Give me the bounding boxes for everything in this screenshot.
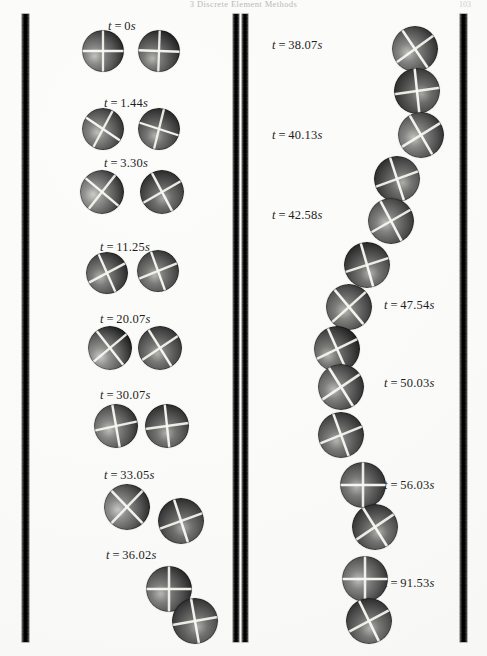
sphere [80,170,124,214]
sphere [368,198,414,244]
time-label: t = 33.05s [104,468,155,483]
sphere [104,484,150,530]
running-head: 3 Discrete Element Methods [0,0,487,9]
time-label: t = 50.03s [384,376,435,391]
sphere [352,504,398,550]
time-label: t = 42.58s [272,208,323,223]
sphere [344,242,390,288]
sphere [398,112,444,158]
time-label: t = 38.07s [272,38,323,53]
sphere [340,462,386,508]
sphere [326,284,372,330]
figure-area: 3 Discrete Element Methods 103 t = 0st =… [0,0,487,656]
right-wall [460,14,467,642]
sphere [82,30,124,72]
left-wall [22,14,29,642]
sphere [394,68,440,114]
sphere [318,412,364,458]
sphere [392,26,438,72]
sphere [138,108,180,150]
sphere [374,156,420,202]
page-number: 103 [459,0,471,9]
time-label: t = 56.03s [384,478,435,493]
sphere [138,326,182,370]
sphere [86,252,128,294]
sphere [318,364,364,410]
time-label: t = 3.30s [104,156,148,171]
sphere [82,108,124,150]
time-label: t = 91.53s [384,576,435,591]
sphere [145,404,189,448]
time-label: t = 36.02s [106,548,157,563]
time-label: t = 20.07s [100,312,151,327]
sphere [94,404,138,448]
sphere [137,250,179,292]
time-label: t = 40.13s [272,128,323,143]
middle-wall-left [233,14,239,642]
time-label: t = 30.07s [100,388,151,403]
middle-wall-right [242,14,248,642]
sphere [138,30,180,72]
sphere [140,170,184,214]
sphere [172,598,218,644]
sphere [158,498,204,544]
sphere [88,326,132,370]
sphere [346,598,392,644]
time-label: t = 47.54s [384,298,435,313]
sphere [342,556,388,602]
